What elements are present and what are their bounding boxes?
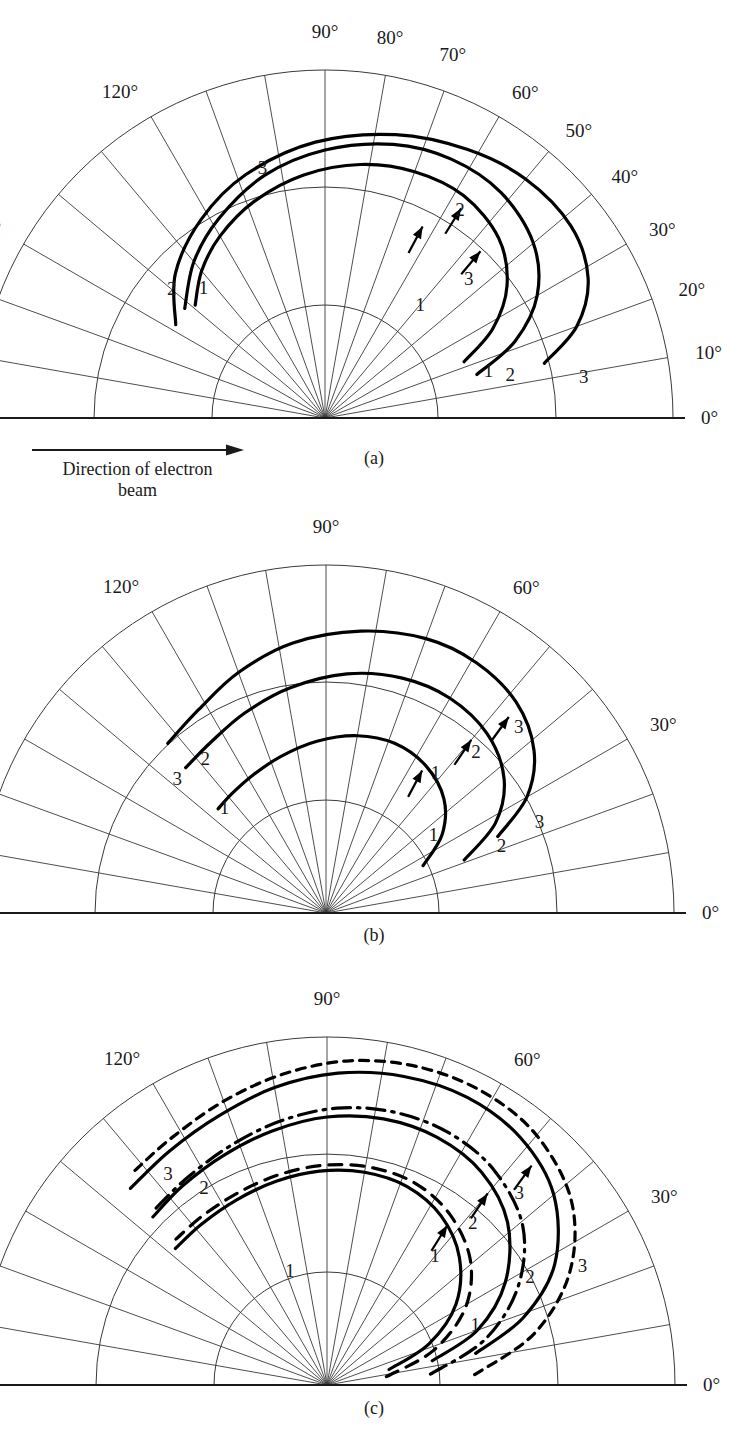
curve-label-3: 3 (578, 1255, 588, 1276)
grid-spoke-130 (101, 151, 325, 418)
grid-spoke-20 (326, 794, 653, 913)
grid-spoke-110 (206, 91, 325, 418)
tick-label-group-b: 0°30°60°90°120° (103, 516, 719, 923)
curve-label-1: 1 (431, 762, 441, 783)
data-curve-1 (175, 1170, 460, 1369)
curve-label-2: 2 (505, 364, 515, 385)
polar-plot-b: 0°30°60°90°120°111222333 (0, 500, 748, 970)
grid-spoke-50 (325, 151, 549, 418)
angle-tick-label: 80° (377, 27, 404, 48)
grid-spoke-40 (326, 689, 593, 913)
grid-spoke-80 (326, 570, 386, 913)
curve-label-3: 3 (163, 1163, 173, 1184)
curve-label-3: 3 (514, 716, 524, 737)
angle-tick-label: 40° (612, 166, 639, 187)
angle-tick-label: 30° (649, 219, 676, 240)
grid-spoke-10 (326, 853, 669, 913)
panel-caption-b: (b) (334, 925, 414, 946)
angle-tick-label: 70° (440, 44, 467, 65)
angle-tick-label: 60° (513, 577, 540, 598)
curve-arrow-head-3 (498, 717, 509, 729)
grid-spoke-140 (58, 194, 325, 418)
angle-tick-label: 120° (103, 576, 139, 597)
curve-label-2: 2 (468, 1212, 478, 1233)
data-curve-2-alt (156, 1108, 525, 1375)
curve-arrow-head-1 (412, 770, 422, 783)
curve-label-3: 3 (515, 1182, 525, 1203)
curve-label-2: 2 (455, 199, 465, 220)
grid-spoke-150 (24, 244, 325, 418)
curve-label-1: 1 (429, 824, 439, 845)
curve-label-1: 1 (285, 1260, 295, 1281)
curve-label-1: 1 (199, 277, 209, 298)
grid-spoke-160 (0, 299, 325, 418)
figure-bottom-caption (0, 1444, 748, 1453)
grid-spoke-60 (327, 1084, 501, 1385)
grid-spoke-10 (327, 1325, 670, 1385)
grid-spoke-100 (267, 1042, 327, 1385)
angle-tick-label: 150° (0, 218, 1, 239)
grid-spoke-140 (59, 689, 326, 913)
angle-tick-label: 10° (695, 342, 722, 363)
panel-caption-a: (a) (334, 448, 414, 469)
angle-tick-label: 50° (565, 120, 592, 141)
angle-tick-label: 90° (313, 516, 340, 537)
grid-spoke-80 (325, 75, 385, 418)
curve-label-3: 3 (464, 268, 474, 289)
angle-tick-label: 120° (102, 81, 138, 102)
polar-grid-b (0, 565, 686, 913)
grid-spoke-30 (327, 1211, 628, 1385)
curve-label-2: 2 (201, 748, 211, 769)
curve-label-2: 2 (525, 1266, 535, 1287)
curve-label-3: 3 (535, 811, 545, 832)
grid-spoke-10 (325, 358, 668, 418)
tick-label-group-c: 0°30°60°90°120° (104, 988, 720, 1395)
beam-note-line2: beam (118, 480, 157, 500)
grid-spoke-70 (325, 91, 444, 418)
angle-tick-label: 0° (703, 1374, 720, 1395)
grid-spoke-40 (325, 194, 592, 418)
right-arrow-icon (30, 443, 250, 457)
grid-spoke-80 (327, 1042, 387, 1385)
curve-label-3: 3 (579, 366, 589, 387)
curve-label-1: 1 (415, 294, 425, 315)
polar-figure: 0°10°20°30°40°50°60°70°80°90°120°150°111… (0, 0, 748, 1453)
angle-tick-label: 60° (514, 1049, 541, 1070)
panel-caption-c: (c) (334, 1398, 414, 1419)
grid-spoke-30 (325, 244, 626, 418)
grid-spoke-160 (0, 794, 326, 913)
polar-panel-b: 0°30°60°90°120°111222333 (0, 500, 748, 970)
curve-label-3: 3 (258, 157, 268, 178)
grid-spoke-170 (0, 358, 325, 418)
beam-note-line1: Direction of electron (63, 459, 213, 479)
curve-label-2: 2 (471, 741, 481, 762)
angle-tick-label: 60° (512, 82, 539, 103)
polar-plot-c: 0°30°60°90°120°111222333 (0, 970, 748, 1453)
curve-label-1: 1 (471, 1314, 481, 1335)
polar-panel-a: 0°10°20°30°40°50°60°70°80°90°120°150°111… (0, 0, 748, 500)
polar-grid-c (0, 1037, 687, 1385)
angle-tick-label: 90° (314, 988, 341, 1009)
angle-tick-label: 0° (702, 902, 719, 923)
curve-group-a (174, 134, 589, 374)
polar-plot-a: 0°10°20°30°40°50°60°70°80°90°120°150°111… (0, 0, 748, 500)
grid-spoke-160 (0, 1266, 327, 1385)
grid-spoke-170 (0, 853, 326, 913)
grid-spoke-110 (207, 586, 326, 913)
curve-group-c (130, 1060, 575, 1376)
grid-spoke-100 (265, 75, 325, 418)
angle-tick-label: 0° (701, 407, 718, 428)
curve-arrow-head-1 (413, 226, 423, 239)
angle-tick-label: 120° (104, 1048, 140, 1069)
grid-spoke-30 (326, 739, 627, 913)
grid-spoke-170 (0, 1325, 327, 1385)
beam-direction-note: Direction of electron beam (30, 443, 280, 501)
curve-arrow-head-1 (437, 1225, 447, 1238)
curve-arrow-head-3 (521, 1166, 532, 1178)
curve-label-2: 2 (199, 1177, 209, 1198)
curve-label-1: 1 (220, 797, 230, 818)
curve-label-3: 3 (173, 768, 183, 789)
curve-label-1: 1 (430, 1245, 440, 1266)
grid-spoke-70 (326, 586, 445, 913)
curve-label-2: 2 (497, 835, 507, 856)
